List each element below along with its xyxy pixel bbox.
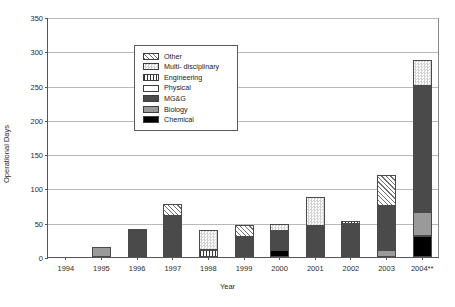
x-axis-tick: 1998 bbox=[188, 257, 228, 279]
legend-swatch-icon bbox=[143, 95, 159, 102]
gridline bbox=[48, 121, 439, 122]
legend-swatch-icon bbox=[143, 116, 159, 123]
bar-segment-biology[interactable] bbox=[92, 247, 111, 257]
bar-column[interactable] bbox=[341, 221, 360, 257]
y-axis-tick-label: 50 bbox=[13, 219, 43, 228]
bar-column[interactable] bbox=[235, 225, 254, 257]
x-axis-tick: 1999 bbox=[224, 257, 264, 279]
legend-swatch-icon bbox=[143, 74, 159, 81]
y-axis-tick-mark bbox=[45, 224, 48, 225]
y-axis-tick-label: 0 bbox=[13, 254, 43, 263]
bar-segment-engineering[interactable] bbox=[199, 250, 218, 257]
chart-figure: Operational Days Year 350300250200150100… bbox=[0, 0, 455, 307]
legend-item-physical[interactable]: Physical bbox=[143, 83, 231, 94]
x-axis-tick: 2000 bbox=[260, 257, 300, 279]
bar-segment-biology[interactable] bbox=[377, 250, 396, 257]
bar-column[interactable] bbox=[413, 60, 432, 257]
legend-item-other[interactable]: Other bbox=[143, 51, 231, 62]
x-axis-tick-mark bbox=[137, 257, 138, 260]
bar-segment-mg-g[interactable] bbox=[128, 229, 147, 257]
y-axis-tick-mark bbox=[45, 52, 48, 53]
x-axis-tick-mark bbox=[315, 257, 316, 260]
bar-segment-engineering[interactable] bbox=[341, 221, 360, 224]
x-axis-tick-mark bbox=[244, 257, 245, 260]
bar-column[interactable] bbox=[128, 229, 147, 257]
gridline bbox=[48, 18, 439, 19]
bar-segment-multi-disciplinary[interactable] bbox=[413, 60, 432, 86]
x-axis-tick-mark bbox=[65, 257, 66, 260]
y-axis-title: Operational Days bbox=[2, 125, 11, 183]
y-axis-tick-mark bbox=[45, 87, 48, 88]
y-axis-tick-mark bbox=[45, 155, 48, 156]
bar-column[interactable] bbox=[377, 175, 396, 257]
bar-segment-other[interactable] bbox=[235, 225, 254, 237]
legend-swatch-icon bbox=[143, 85, 159, 92]
y-axis-tick-label: 300 bbox=[13, 48, 43, 57]
bar-segment-other[interactable] bbox=[377, 175, 396, 206]
x-axis-tick-label: 2001 bbox=[307, 264, 324, 273]
legend-item-label: MG&G bbox=[164, 95, 186, 102]
bar-segment-other[interactable] bbox=[163, 204, 182, 216]
x-axis-tick: 1994 bbox=[46, 257, 86, 279]
bar-segment-mg-g[interactable] bbox=[163, 216, 182, 257]
bar-segment-mg-g[interactable] bbox=[413, 86, 432, 213]
bar-segment-multi-disciplinary[interactable] bbox=[306, 197, 325, 226]
bar-segment-biology[interactable] bbox=[413, 212, 432, 236]
bar-segment-chemical[interactable] bbox=[413, 236, 432, 257]
plot-area: 350300250200150100500 199419951996199719… bbox=[47, 18, 439, 258]
y-axis-tick-label: 250 bbox=[13, 82, 43, 91]
bar-column[interactable] bbox=[270, 224, 289, 257]
x-axis-tick: 1995 bbox=[81, 257, 121, 279]
y-axis-tick-mark bbox=[45, 189, 48, 190]
x-axis-tick-label: 2002 bbox=[343, 264, 360, 273]
legend-item-biology[interactable]: Biology bbox=[143, 104, 231, 115]
x-axis-tick-label: 2003 bbox=[378, 264, 395, 273]
x-axis-tick-label: 1998 bbox=[200, 264, 217, 273]
y-axis-tick-label: 350 bbox=[13, 14, 43, 23]
bar-column[interactable] bbox=[163, 204, 182, 257]
bar-segment-mg-g[interactable] bbox=[341, 224, 360, 257]
y-axis-tick-label: 200 bbox=[13, 116, 43, 125]
x-axis-tick-mark bbox=[101, 257, 102, 260]
bar-segment-chemical[interactable] bbox=[270, 250, 289, 257]
x-axis-tick-mark bbox=[350, 257, 351, 260]
bar-column[interactable] bbox=[199, 230, 218, 257]
bar-column[interactable] bbox=[92, 247, 111, 257]
x-axis-tick-label: 1994 bbox=[57, 264, 74, 273]
x-axis-tick: 2001 bbox=[295, 257, 335, 279]
x-axis-tick-label: 1995 bbox=[93, 264, 110, 273]
legend-swatch-icon bbox=[143, 53, 159, 60]
x-axis-tick-label: 1996 bbox=[129, 264, 146, 273]
legend-item-label: Biology bbox=[164, 106, 188, 113]
bar-segment-mg-g[interactable] bbox=[270, 231, 289, 250]
legend-item-engineering[interactable]: Engineering bbox=[143, 72, 231, 83]
legend-item-mg-g[interactable]: MG&G bbox=[143, 93, 231, 104]
legend-item-multi-disciplinary[interactable]: Multi- disciplinary bbox=[143, 62, 231, 73]
x-axis-tick: 2003 bbox=[367, 257, 407, 279]
x-axis-tick-label: 1997 bbox=[164, 264, 181, 273]
legend-swatch-icon bbox=[143, 106, 159, 113]
x-axis-tick: 2002 bbox=[331, 257, 371, 279]
bar-segment-mg-g[interactable] bbox=[306, 226, 325, 257]
x-axis-tick-label: 2004** bbox=[411, 264, 434, 273]
legend-item-label: Multi- disciplinary bbox=[164, 63, 219, 70]
bar-segment-multi-disciplinary[interactable] bbox=[270, 224, 289, 231]
legend-item-label: Other bbox=[164, 53, 182, 60]
legend-swatch-icon bbox=[143, 63, 159, 70]
bar-segment-mg-g[interactable] bbox=[235, 237, 254, 257]
legend-item-chemical[interactable]: Chemical bbox=[143, 115, 231, 126]
bar-segment-multi-disciplinary[interactable] bbox=[199, 230, 218, 251]
bar-column[interactable] bbox=[306, 197, 325, 257]
gridline bbox=[48, 52, 439, 53]
y-axis-tick-mark bbox=[45, 121, 48, 122]
y-axis-tick-label: 150 bbox=[13, 151, 43, 160]
y-axis-tick-label: 100 bbox=[13, 185, 43, 194]
x-axis-tick-mark bbox=[386, 257, 387, 260]
y-axis-tick-mark bbox=[45, 18, 48, 19]
chart-legend: OtherMulti- disciplinaryEngineeringPhysi… bbox=[134, 45, 238, 131]
x-axis-tick: 1996 bbox=[117, 257, 157, 279]
x-axis-tick-mark bbox=[422, 257, 423, 260]
bar-segment-mg-g[interactable] bbox=[377, 206, 396, 251]
x-axis-tick: 2004** bbox=[402, 257, 442, 279]
x-axis-title: Year bbox=[0, 282, 455, 291]
